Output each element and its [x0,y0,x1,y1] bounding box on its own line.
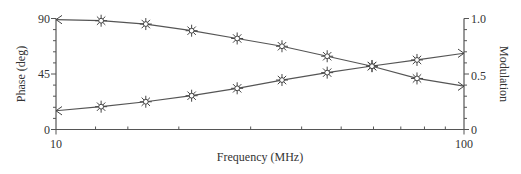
star-marker-icon [231,82,243,94]
y-tick-45: 45 [38,67,50,81]
star-marker-icon [140,18,152,30]
y2-tick-0-5: 0.5 [471,69,486,83]
star-marker-icon [231,32,243,44]
y2-tick-1-0: 1.0 [471,12,486,26]
y-tick-0: 0 [44,123,50,137]
tick-marks [51,19,469,135]
star-marker-icon [321,67,333,79]
star-marker-icon [186,90,198,102]
y-axis-title: Phase (deg) [14,46,28,102]
series-layer [56,15,464,115]
star-marker-icon [186,25,198,37]
star-marker-icon [276,74,288,86]
series-phase [56,49,464,115]
y2-tick-0: 0 [471,123,477,137]
star-marker-icon [321,50,333,62]
series-modulation [56,15,464,91]
star-marker-icon [140,96,152,108]
star-marker-icon [95,101,107,113]
star-marker-icon [411,72,423,84]
star-marker-icon [411,54,423,66]
star-marker-icon [276,40,288,52]
x-tick-100: 100 [455,137,473,151]
x-tick-10: 10 [50,137,62,151]
series-line [56,20,464,87]
phase-modulation-chart: 90 45 0 1.0 0.5 0 10 100 Frequency (MHz)… [0,0,521,174]
y-tick-90: 90 [38,12,50,26]
y2-axis-title: Modulation [497,46,511,102]
series-line [56,53,464,110]
x-axis-title: Frequency (MHz) [217,150,303,164]
star-marker-icon [95,15,107,27]
